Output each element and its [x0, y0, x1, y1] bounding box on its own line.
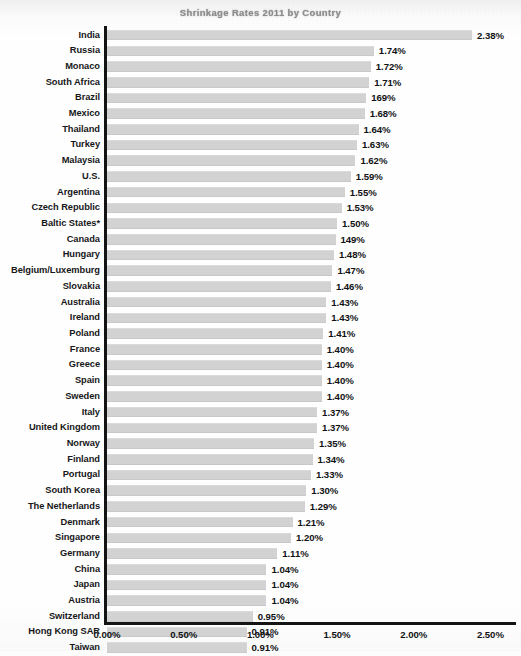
- bar-value-label: 1.41%: [328, 326, 355, 342]
- category-label: South Korea: [0, 483, 100, 499]
- bar-row: Slovakia1.46%: [0, 279, 521, 295]
- bar-row: Finland1.34%: [0, 452, 521, 468]
- category-label: France: [0, 342, 100, 358]
- x-tick-label: 2.50%: [477, 629, 504, 640]
- bar: [107, 391, 322, 402]
- bar: [107, 187, 345, 198]
- category-label: The Netherlands: [0, 499, 100, 515]
- category-label: Mexico: [0, 106, 100, 122]
- category-label: Russia: [0, 43, 100, 59]
- bar-row: Italy1.37%: [0, 405, 521, 421]
- bar-value-label: 1.46%: [336, 279, 363, 295]
- bar-row: Russia1.74%: [0, 43, 521, 59]
- bar-value-label: 1.72%: [376, 59, 403, 75]
- bar-value-label: 1.04%: [271, 577, 298, 593]
- bar: [107, 155, 355, 166]
- bar-value-label: 1.30%: [311, 483, 338, 499]
- bar-value-label: 2.38%: [477, 28, 504, 44]
- bar-value-label: 1.40%: [327, 373, 354, 389]
- bar-value-label: 1.11%: [282, 546, 308, 562]
- bar-row: Australia1.43%: [0, 295, 521, 311]
- category-label: Monaco: [0, 59, 100, 75]
- bar-value-label: 1.64%: [364, 122, 391, 138]
- bar-value-label: 1.40%: [327, 389, 354, 405]
- bar-value-label: 1.43%: [331, 295, 358, 311]
- x-tick-label: 0.00%: [94, 629, 121, 640]
- category-label: Poland: [0, 326, 100, 342]
- bar: [107, 375, 322, 386]
- bar: [107, 124, 359, 135]
- x-tick-label: 1.50%: [324, 629, 351, 640]
- bar-row: The Netherlands1.29%: [0, 499, 521, 515]
- x-tick-label: 2.00%: [400, 629, 427, 640]
- bar-value-label: 1.04%: [271, 562, 298, 578]
- bar: [107, 438, 314, 449]
- bar: [107, 328, 323, 339]
- bar: [107, 61, 371, 72]
- bar: [107, 470, 311, 481]
- category-label: Denmark: [0, 515, 100, 531]
- bar: [107, 360, 322, 371]
- bar-value-label: 1.55%: [350, 185, 377, 201]
- bar-row: Poland1.41%: [0, 326, 521, 342]
- bar-row: South Korea1.30%: [0, 483, 521, 499]
- bar: [107, 77, 369, 88]
- category-label: U.S.: [0, 169, 100, 185]
- bar-row: Canada149%: [0, 232, 521, 248]
- category-label: Belgium/Luxemburg: [0, 263, 100, 279]
- bar: [107, 93, 366, 104]
- bar-value-label: 1.37%: [322, 405, 349, 421]
- bar-value-label: 1.71%: [374, 75, 401, 91]
- bar: [107, 423, 317, 434]
- category-label: Canada: [0, 232, 100, 248]
- category-label: Japan: [0, 577, 100, 593]
- bar-row: Portugal1.33%: [0, 467, 521, 483]
- bar-row: Hungary1.48%: [0, 247, 521, 263]
- bar-value-label: 1.53%: [347, 200, 374, 216]
- category-label: Ireland: [0, 310, 100, 326]
- category-label: Turkey: [0, 137, 100, 153]
- category-label: Spain: [0, 373, 100, 389]
- bar-value-label: 1.20%: [296, 530, 323, 546]
- category-label: Hungary: [0, 247, 100, 263]
- category-label: Czech Republic: [0, 200, 100, 216]
- bar: [107, 533, 291, 544]
- bar-value-label: 1.35%: [319, 436, 346, 452]
- bar: [107, 281, 331, 292]
- category-label: Baltic States*: [0, 216, 100, 232]
- bar: [107, 30, 472, 41]
- bar-value-label: 1.74%: [379, 43, 406, 59]
- bar-row: Singapore1.20%: [0, 530, 521, 546]
- category-label: Singapore: [0, 530, 100, 546]
- bar-value-label: 0.95%: [258, 609, 285, 625]
- bar: [107, 485, 306, 496]
- category-label: Norway: [0, 436, 100, 452]
- bar: [107, 140, 357, 151]
- bar-row: Norway1.35%: [0, 436, 521, 452]
- category-label: Argentina: [0, 185, 100, 201]
- category-label: South Africa: [0, 75, 100, 91]
- bar-value-label: 1.68%: [370, 106, 397, 122]
- bar-row: Mexico1.68%: [0, 106, 521, 122]
- bar-row: Japan1.04%: [0, 577, 521, 593]
- x-tick-label: 1.00%: [247, 629, 274, 640]
- bar-value-label: 1.62%: [360, 153, 387, 169]
- bar-value-label: 1.43%: [331, 310, 358, 326]
- bar: [107, 46, 374, 57]
- bar-row: Turkey1.63%: [0, 137, 521, 153]
- category-label: Portugal: [0, 467, 100, 483]
- bar-row: Austria1.04%: [0, 593, 521, 609]
- bar-row: Germany1.11%: [0, 546, 521, 562]
- x-tick-label: 0.50%: [170, 629, 197, 640]
- bar-value-label: 1.48%: [339, 247, 366, 263]
- bar-row: Monaco1.72%: [0, 59, 521, 75]
- category-label: Greece: [0, 357, 100, 373]
- bar-row: Argentina1.55%: [0, 185, 521, 201]
- bar-row: Spain1.40%: [0, 373, 521, 389]
- category-label: Malaysia: [0, 153, 100, 169]
- bar-row: Belgium/Luxemburg1.47%: [0, 263, 521, 279]
- bar-row: Thailand1.64%: [0, 122, 521, 138]
- category-label: Italy: [0, 405, 100, 421]
- bar-value-label: 1.37%: [322, 420, 349, 436]
- bar-row: Ireland1.43%: [0, 310, 521, 326]
